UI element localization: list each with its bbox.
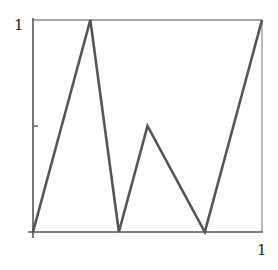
x-tick-label-1: 1 — [257, 241, 267, 259]
y-tick-label-1: 1 — [14, 16, 24, 34]
data-line — [33, 20, 262, 232]
chart: 1 1 — [0, 0, 278, 270]
